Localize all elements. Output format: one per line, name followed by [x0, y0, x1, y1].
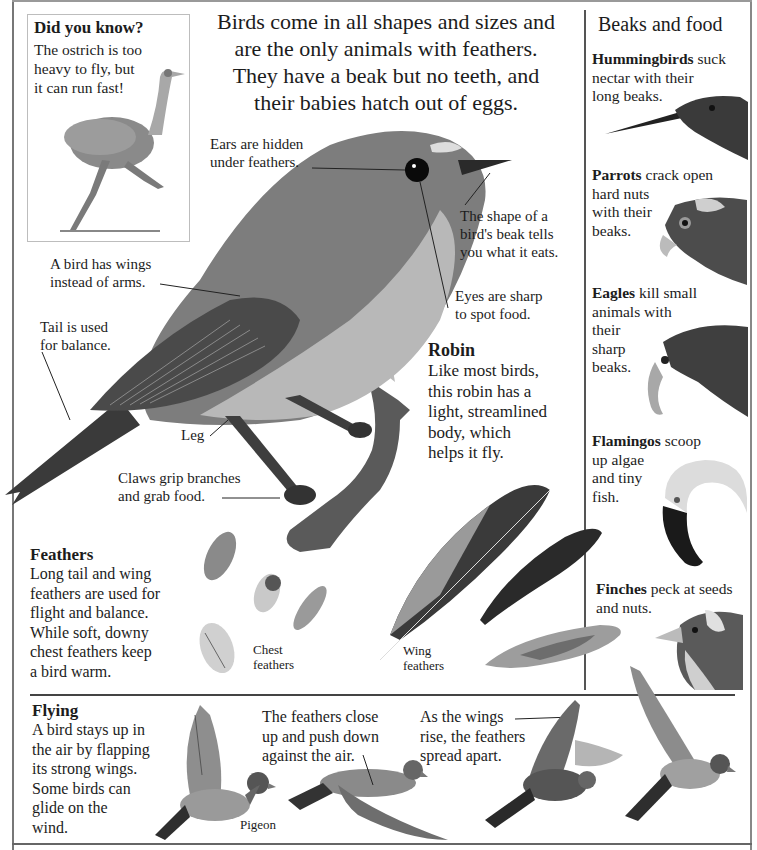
label-eyes: Eyes are sharp to spot food.	[455, 287, 542, 323]
label-chest-feathers: Chest feathers	[253, 642, 294, 672]
top-frame-line	[12, 0, 752, 2]
pigeon-wings-rising-image	[475, 700, 625, 835]
pigeon-wings-down-image	[288, 755, 458, 850]
label-beak: The shape of a bird's beak tells you wha…	[460, 207, 558, 261]
label-wings: A bird has wings instead of arms.	[50, 255, 151, 291]
feathers-title: Feathers	[30, 545, 93, 565]
label-tail: Tail is used for balance.	[40, 318, 111, 354]
label-pigeon: Pigeon	[240, 817, 276, 832]
eagle-head-image	[643, 322, 750, 422]
beaks-and-food-title: Beaks and food	[598, 13, 722, 36]
label-ears: Ears are hidden under feathers.	[210, 135, 303, 171]
label-wing-feathers: Wing feathers	[403, 643, 444, 673]
robin-text: Like most birds, this robin has a light,…	[428, 361, 547, 464]
hummingbird-head-image	[600, 92, 750, 162]
label-leg: Leg	[181, 426, 204, 444]
pigeon-ascending-image	[620, 666, 745, 831]
flying-title: Flying	[32, 701, 78, 721]
flamingo-head-image	[655, 458, 750, 573]
flying-text: A bird stays up in the air by flapping i…	[32, 720, 150, 837]
feathers-text: Long tail and wing feathers are used for…	[30, 564, 160, 681]
right-frame-line	[750, 0, 752, 850]
parrot-head-image	[655, 195, 750, 290]
label-claws: Claws grip branches and grab food.	[118, 469, 240, 505]
did-you-know-title: Did you know?	[34, 18, 144, 38]
robin-title: Robin	[428, 340, 475, 361]
intro-paragraph: Birds come in all shapes and sizes and a…	[193, 8, 579, 116]
